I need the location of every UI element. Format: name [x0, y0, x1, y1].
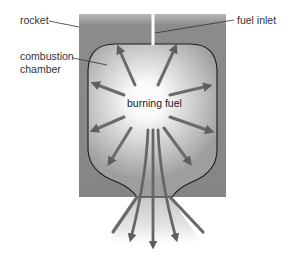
rocket-combustion-diagram: rocket combustion chamber fuel inlet bur…	[0, 0, 290, 258]
label-burning-fuel: burning fuel	[127, 97, 182, 109]
label-combustion-chamber-line1: combustion	[20, 50, 74, 62]
label-fuel-inlet: fuel inlet	[237, 14, 276, 26]
leader-rocket	[49, 21, 79, 27]
exhaust-plume	[110, 197, 200, 249]
label-combustion-chamber: combustion chamber	[20, 50, 77, 75]
fuel-inlet-slot	[152, 14, 155, 45]
label-combustion-chamber-line2: chamber	[20, 63, 61, 75]
label-rocket: rocket	[20, 14, 49, 26]
